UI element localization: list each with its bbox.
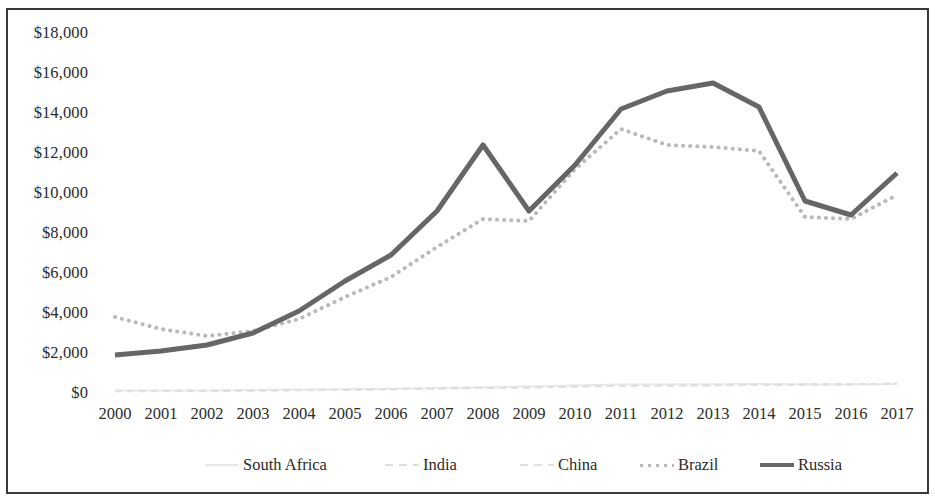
legend-label: China (558, 457, 597, 474)
legend-swatch-icon (385, 458, 419, 472)
legend-item-russia[interactable]: Russia (760, 452, 842, 478)
legend-label: Brazil (678, 457, 718, 474)
legend-swatch-icon (520, 458, 554, 472)
chart-container: $0$2,000$4,000$6,000$8,000$10,000$12,000… (0, 0, 935, 502)
chart-legend: South AfricaIndiaChinaBrazilRussia (0, 452, 935, 482)
x-axis: 2000200120022003200420052006200720082009… (0, 404, 935, 434)
legend-label: South Africa (243, 457, 327, 474)
legend-label: Russia (798, 457, 842, 474)
legend-swatch-icon (640, 458, 674, 472)
series-line (115, 83, 897, 355)
legend-swatch-icon (760, 458, 794, 472)
legend-item-south-africa[interactable]: South Africa (205, 452, 327, 478)
legend-label: India (423, 457, 457, 474)
legend-item-china[interactable]: China (520, 452, 597, 478)
legend-item-india[interactable]: India (385, 452, 457, 478)
legend-swatch-icon (205, 458, 239, 472)
legend-item-brazil[interactable]: Brazil (640, 452, 718, 478)
x-axis-tick-label: 2017 (869, 404, 925, 424)
series-line (115, 129, 897, 336)
